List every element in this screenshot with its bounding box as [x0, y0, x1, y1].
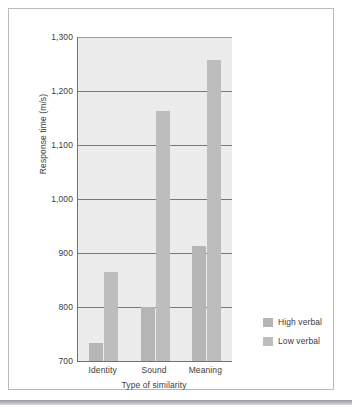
- x-axis-tick-label: Meaning: [189, 365, 222, 375]
- bar: [192, 246, 206, 361]
- bar: [104, 272, 118, 361]
- gridline: [78, 37, 232, 38]
- x-axis-tick-labels: IdentitySoundMeaning: [77, 365, 231, 379]
- legend-swatch-icon: [263, 318, 273, 327]
- x-axis-tick-label: Sound: [141, 365, 166, 375]
- y-axis-tick-label: 700: [59, 356, 73, 366]
- legend-item: High verbal: [263, 317, 339, 327]
- bar: [156, 111, 170, 361]
- bar: [89, 343, 103, 361]
- bar: [207, 60, 221, 361]
- figure: Response time (m/s) 7008009001,0001,1001…: [0, 0, 352, 419]
- y-axis-tick-labels: 7008009001,0001,1001,2001,300: [33, 37, 73, 361]
- bottom-divider-rule: [0, 400, 352, 405]
- y-axis-tick-label: 1,100: [51, 140, 73, 150]
- legend-label: High verbal: [278, 317, 322, 327]
- y-axis-tick-label: 900: [59, 248, 73, 258]
- y-axis-tick-label: 1,000: [51, 194, 73, 204]
- plot-area: [77, 37, 232, 362]
- legend-swatch-icon: [263, 337, 273, 346]
- chart-card: Response time (m/s) 7008009001,0001,1001…: [8, 8, 334, 390]
- y-axis-tick-label: 1,200: [51, 86, 73, 96]
- y-axis-tick-label: 800: [59, 302, 73, 312]
- x-axis-title: Type of similarity: [77, 380, 231, 390]
- bar: [141, 307, 155, 361]
- y-axis-tick-label: 1,300: [51, 32, 73, 42]
- legend-label: Low verbal: [278, 336, 320, 346]
- legend: High verbalLow verbal: [263, 317, 339, 355]
- legend-item: Low verbal: [263, 336, 339, 346]
- x-axis-tick-label: Identity: [89, 365, 117, 375]
